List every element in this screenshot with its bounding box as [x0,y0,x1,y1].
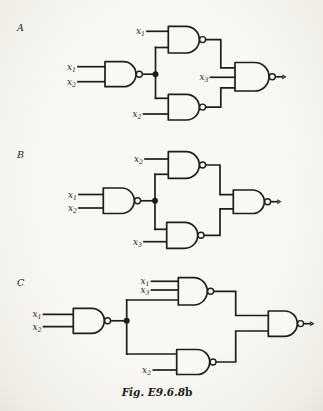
signal-label-a-top: x1 [136,26,145,37]
signal-label-c-bottom: x2 [142,365,151,376]
nand-gate-c4 [268,311,303,336]
signal-label-b-left2: x2 [68,203,77,214]
nand-gate-body [268,311,297,336]
inversion-bubble-icon [135,198,141,204]
nand-gate-body [177,350,210,375]
signal-label-b-left1: x1 [68,190,77,201]
signal-label-a-left1: x1 [67,62,76,73]
nand-gate-body [168,26,199,53]
figure-page: A x1 x1 x2 x3 x2 B x2 x1 x2 x3 [0,0,323,411]
nand-gate-body [178,278,207,305]
circuit-a-label: A [16,22,24,33]
inversion-bubble-icon [200,162,206,168]
nand-gate-body [167,222,198,248]
circuit-c-label: C [17,277,25,288]
signal-label-c-left1: x1 [32,309,41,320]
nand-gate-b1 [103,188,140,214]
signal-label-b-top: x2 [134,154,143,165]
nand-gate-body [168,94,199,120]
inversion-bubble-icon [210,359,216,365]
inversion-bubble-icon [200,104,206,110]
nand-gate-a3 [168,94,205,120]
junction-dot-c [124,318,130,324]
signal-label-c-left2: x2 [32,322,41,333]
circuit-b: B x2 x1 x2 x3 [16,149,280,248]
signal-label-a-mid: x3 [199,72,208,83]
nand-gate-body [235,63,269,92]
logic-circuit-figure: A x1 x1 x2 x3 x2 B x2 x1 x2 x3 [0,0,323,411]
circuit-a: A x1 x1 x2 x3 x2 [16,22,285,120]
inversion-bubble-icon [105,318,111,324]
inversion-bubble-icon [298,321,304,327]
nand-gate-a1 [105,62,142,87]
wire-c-g2-output [214,291,269,315]
nand-gate-body [105,62,136,87]
nand-gate-body [73,308,104,333]
nand-gate-body [168,152,199,179]
junction-dot-a [153,71,159,77]
nand-gate-c2 [178,278,213,305]
signal-label-a-bottom: x2 [132,109,141,120]
inversion-bubble-icon [198,232,204,238]
nand-gate-b3 [167,222,204,248]
wire-c-g3-output [216,331,268,362]
inversion-bubble-icon [136,71,142,77]
figure-caption: Fig. E9.6.8b [121,386,193,398]
signal-label-a-left2: x2 [67,77,76,88]
wire-b-g2-output [206,165,234,195]
nand-gate-a4 [235,63,275,92]
wire-b-g3-output [204,209,233,236]
inversion-bubble-icon [200,37,206,43]
inversion-bubble-icon [265,199,271,205]
junction-dot-b [152,198,158,204]
nand-gate-a2 [168,26,205,53]
nand-gate-body [233,190,264,214]
nand-gate-b2 [168,152,205,179]
inversion-bubble-icon [208,288,214,294]
nand-gate-body [103,188,134,214]
signal-label-b-bottom: x3 [133,237,142,248]
nand-gate-c1 [73,308,110,333]
circuit-c: C x1 x3 x1 x2 x2 [17,276,313,376]
nand-gate-c3 [177,350,216,375]
circuit-b-label: B [16,149,24,160]
wire-a-g3-output [206,88,235,107]
inversion-bubble-icon [269,74,275,80]
nand-gate-b4 [233,190,270,214]
wire-a-g2-output [206,40,235,68]
